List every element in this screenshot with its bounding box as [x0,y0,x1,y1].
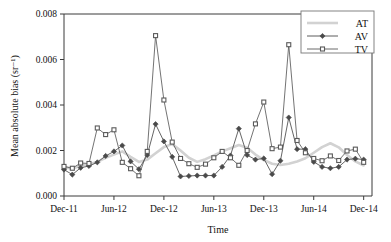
data-point [287,43,291,47]
data-point [237,163,241,167]
x-tick-label: Dec-12 [150,204,178,214]
chart-figure: 0.0000.0020.0040.0060.008 Dec-11Jun-12De… [0,0,391,242]
series-line-av [64,118,364,177]
data-point [62,164,66,168]
data-point [154,34,158,38]
y-tick-label: 0.006 [36,55,58,65]
data-point [320,159,324,163]
data-point [270,172,275,177]
data-point [145,149,149,153]
data-point [137,174,141,178]
y-tick-label: 0.008 [36,9,58,19]
legend-label: AV [355,31,369,42]
data-point [270,147,274,151]
data-point [170,154,175,159]
data-point [245,149,249,153]
data-point [262,100,266,104]
data-point [353,147,357,151]
legend-swatch-marker [321,47,325,51]
data-point [187,162,191,166]
data-point [87,161,91,165]
data-point [104,133,108,137]
data-point [178,174,183,179]
data-point [161,139,166,144]
data-point [195,165,199,169]
x-tick-label: Jun-12 [101,204,127,214]
x-axis-ticks [64,196,364,200]
data-point [212,156,216,160]
data-point [70,166,74,170]
data-point [362,160,366,164]
data-point [278,145,282,149]
y-tick-label: 0.000 [36,191,58,201]
data-point [319,164,324,169]
data-point [312,156,316,160]
x-tick-label: Jun-13 [201,204,227,214]
data-point [186,173,191,178]
data-point [337,159,341,163]
data-point [153,122,158,127]
x-axis-tick-labels: Dec-11Jun-12Dec-12Jun-13Dec-13Jun-14Dec-… [50,204,378,214]
x-tick-label: Dec-14 [350,204,378,214]
data-series-layer [61,34,366,179]
data-point [220,149,224,153]
data-point [328,166,333,171]
legend-label: AT [356,18,368,29]
data-point [203,173,208,178]
x-axis-title: Time [208,224,229,235]
data-point [195,173,200,178]
data-point [204,162,208,166]
y-axis-title: Mean absolute bias (sr⁻¹) [9,55,21,157]
y-axis-tick-labels: 0.0000.0020.0040.0060.008 [36,9,58,201]
data-point [278,158,283,163]
data-point [162,98,166,102]
y-tick-label: 0.002 [36,146,58,156]
x-tick-label: Dec-13 [250,204,278,214]
x-tick-label: Dec-11 [50,204,78,214]
y-tick-label: 0.004 [36,100,58,110]
legend: ATAVTV [301,11,374,55]
legend-label: TV [355,44,369,55]
data-point [345,149,349,153]
chart-svg: 0.0000.0020.0040.0060.008 Dec-11Jun-12De… [0,0,391,242]
data-point [120,160,124,164]
data-point [286,115,291,120]
data-point [79,161,83,165]
data-point [303,151,307,155]
x-tick-label: Jun-14 [301,204,327,214]
data-point [294,147,299,152]
data-point [253,122,257,126]
data-point [129,167,133,171]
data-point [95,126,99,130]
data-point [170,140,174,144]
data-point [112,128,116,132]
data-point [179,156,183,160]
data-point [328,154,332,158]
data-point [295,138,299,142]
data-point [120,143,125,148]
data-point [228,156,232,160]
data-point [236,126,241,131]
data-point [253,157,258,162]
legend-items: ATAVTV [307,18,369,55]
